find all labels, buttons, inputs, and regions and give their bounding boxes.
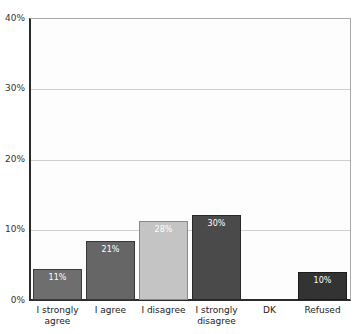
x-axis-category-labels: I strongly agree I agree I disagree I st… [31, 305, 350, 334]
bar-slot-3: 30% [192, 18, 241, 300]
bar-value-label-5: 10% [299, 276, 346, 285]
bar-value-label-3: 30% [193, 219, 240, 228]
y-tick-label-0: 0% [0, 296, 25, 305]
x-label-refused: Refused [290, 305, 355, 316]
bar-i-disagree[interactable]: 28% [139, 221, 188, 300]
bar-value-label-2: 28% [140, 225, 187, 234]
bar-slot-2: 28% [139, 18, 188, 300]
y-tick-label-30: 30% [0, 84, 25, 93]
y-tick-label-10: 10% [0, 225, 25, 234]
bar-i-agree[interactable]: 21% [86, 241, 135, 300]
bar-i-strongly-agree[interactable]: 11% [33, 269, 82, 300]
bar-value-label-1: 21% [87, 245, 134, 254]
y-tick-label-20: 20% [0, 155, 25, 164]
y-tick-label-40: 40% [0, 14, 25, 23]
bar-i-strongly-disagree[interactable]: 30% [192, 215, 241, 300]
bar-value-label-0: 11% [34, 273, 81, 282]
bar-slot-5: 10% [298, 18, 347, 300]
bars-layer: 11% 21% 28% 30% 10% [31, 18, 350, 300]
bar-slot-0: 11% [33, 18, 82, 300]
bar-slot-1: 21% [86, 18, 135, 300]
bar-refused[interactable]: 10% [298, 272, 347, 300]
bar-slot-4 [245, 18, 294, 300]
bar-chart: 40% 30% 20% 10% 0% 11% 21% 28% 30 [0, 0, 357, 334]
